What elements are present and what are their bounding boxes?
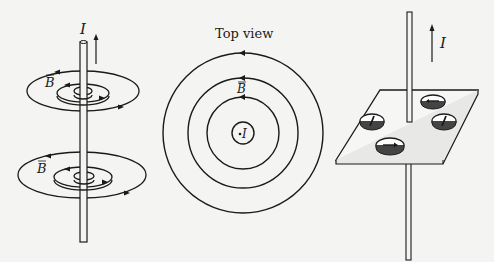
field-label-lower: B [36, 161, 47, 176]
side-view-panel: I B B [18, 20, 146, 242]
compass-board-panel: I [336, 12, 478, 260]
current-label: I [79, 20, 87, 38]
compass-right [432, 114, 456, 130]
top-view-title: Top view [215, 26, 273, 41]
current-label: I [241, 127, 247, 141]
compass-front [376, 138, 404, 155]
current-label: I [439, 34, 447, 52]
current-out-of-page-dot-icon [239, 133, 242, 136]
wire [407, 12, 412, 122]
wire [80, 41, 87, 243]
top-view-panel: Top view B I [163, 26, 323, 213]
compass-left [360, 114, 384, 130]
magnetic-field-diagram: I B B Top view B I [0, 0, 494, 262]
field-label: B [236, 82, 246, 96]
compass-back [421, 95, 445, 109]
field-label-upper: B [44, 75, 55, 90]
